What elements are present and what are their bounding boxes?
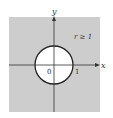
x-tick-one-label: 1 (75, 68, 79, 76)
y-axis-label: y (51, 7, 57, 16)
polar-region-diagram: y x 0 1 r ≥ 1 (0, 0, 113, 118)
origin-label: 0 (47, 68, 51, 76)
x-axis-label: x (101, 61, 106, 70)
region-label: r ≥ 1 (74, 33, 92, 41)
